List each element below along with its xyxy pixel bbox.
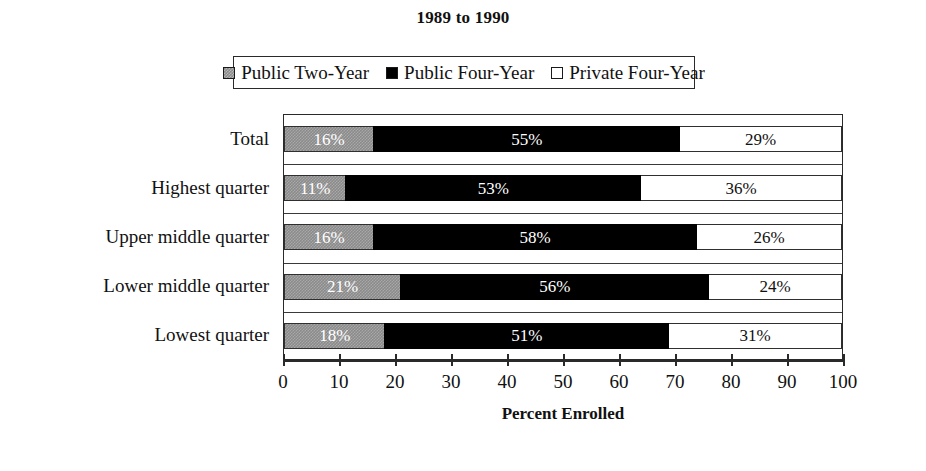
plot-area: 16%55%29%11%53%36%16%58%26%21%56%24%18%5… [283,114,843,360]
y-axis-label-total: Total [230,114,269,163]
x-axis-tick-label: 60 [610,371,629,393]
x-axis-tick [619,354,621,366]
bar-segment-public-two-year: 11% [284,175,345,201]
bar-segment-public-four-year: 55% [373,126,680,152]
bar-value-label: 11% [300,180,331,197]
bar-value-label: 53% [478,180,509,197]
x-axis-tick [451,354,453,366]
bar-value-label: 21% [327,278,358,295]
chart-title: 1989 to 1990 [0,8,926,28]
legend-label: Public Two-Year [241,63,369,82]
x-axis-tick-label: 90 [778,371,797,393]
legend-swatch-black-icon [386,67,398,79]
legend-item-public-two-year: Public Two-Year [223,63,369,82]
x-axis-tick [283,354,285,366]
bar-value-label: 16% [314,131,345,148]
x-axis-tick [731,354,733,366]
y-axis-category-labels: TotalHighest quarterUpper middle quarter… [20,114,276,360]
x-axis-tick [787,354,789,366]
stacked-bar: 11%53%36% [284,175,842,201]
stacked-bar: 16%55%29% [284,126,842,152]
stacked-bar: 18%51%31% [284,323,842,349]
legend-swatch-gray-icon [223,67,235,79]
y-axis-label-lowest-quarter: Lowest quarter [155,311,269,360]
bar-segment-private-four-year: 24% [709,274,842,300]
x-axis-tick-label: 30 [442,371,461,393]
bar-segment-private-four-year: 31% [669,323,842,349]
bar-value-label: 55% [511,131,542,148]
stacked-bar: 16%58%26% [284,224,842,250]
bar-segment-public-two-year: 16% [284,224,373,250]
bar-value-label: 29% [745,131,776,148]
x-axis-tick-label: 70 [666,371,685,393]
x-axis-tick [563,354,565,366]
x-axis-tick-label: 80 [722,371,741,393]
bar-segment-private-four-year: 36% [641,175,842,201]
bar-value-label: 18% [319,327,350,344]
bar-segment-public-four-year: 58% [373,224,697,250]
bar-value-label: 56% [539,278,570,295]
bar-segment-public-four-year: 51% [384,323,669,349]
x-axis-tick-label: 20 [386,371,405,393]
bar-segment-public-two-year: 18% [284,323,384,349]
bar-value-label: 24% [760,278,791,295]
y-axis-label-lower-middle-quarter: Lower middle quarter [103,262,269,311]
x-axis: 0102030405060708090100 [283,360,843,406]
y-axis-label-upper-middle-quarter: Upper middle quarter [105,212,269,261]
bar-segment-public-two-year: 21% [284,274,400,300]
x-axis-tick [339,354,341,366]
bar-value-label: 36% [725,180,756,197]
legend-label: Private Four-Year [569,63,704,82]
bar-value-label: 31% [739,327,770,344]
bar-segment-public-four-year: 53% [345,175,641,201]
bar-row: 16%55%29% [284,115,842,164]
chart-legend: Public Two-Year Public Four-Year Private… [233,56,695,89]
x-axis-tick [675,354,677,366]
legend-item-private-four-year: Private Four-Year [551,63,704,82]
bar-row: 16%58%26% [284,213,842,262]
bar-row: 11%53%36% [284,164,842,213]
bar-value-label: 58% [520,229,551,246]
bar-segment-public-four-year: 56% [400,274,709,300]
y-axis-label-highest-quarter: Highest quarter [151,163,269,212]
x-axis-tick-label: 0 [278,371,288,393]
x-axis-tick-label: 100 [829,371,858,393]
bar-value-label: 26% [753,229,784,246]
bar-segment-public-two-year: 16% [284,126,373,152]
legend-item-public-four-year: Public Four-Year [386,63,534,82]
x-axis-tick-label: 10 [330,371,349,393]
x-axis-tick [507,354,509,366]
x-axis-tick-label: 40 [498,371,517,393]
bar-value-label: 16% [314,229,345,246]
bar-value-label: 51% [511,327,542,344]
bar-row: 21%56%24% [284,263,842,312]
x-axis-tick-label: 50 [554,371,573,393]
bar-segment-private-four-year: 29% [680,126,842,152]
x-axis-tick [843,354,845,366]
legend-swatch-white-icon [551,67,563,79]
bar-segment-private-four-year: 26% [697,224,842,250]
stacked-bar: 21%56%24% [284,274,842,300]
x-axis-title: Percent Enrolled [283,404,843,424]
x-axis-tick [395,354,397,366]
legend-label: Public Four-Year [404,63,534,82]
